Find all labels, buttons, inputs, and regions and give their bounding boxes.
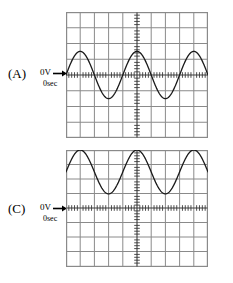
zero-volt-label-c: 0V [40, 203, 51, 212]
zero-volt-label-a: 0V [40, 68, 51, 77]
right-arrow-icon [53, 204, 67, 213]
scope-panel-c: (C) 0V 0sec [0, 140, 233, 283]
zero-sec-label-a: 0sec [43, 80, 57, 88]
right-arrow-icon [53, 69, 67, 78]
scope-grid-c [66, 150, 208, 267]
scope-screen-a [66, 12, 208, 138]
oscilloscope-figure: (A) 0V 0sec [0, 0, 233, 283]
scope-screen-c [66, 150, 208, 267]
panel-letter-a: (A) [8, 67, 26, 80]
scope-grid-a [66, 12, 208, 138]
scope-panel-a: (A) 0V 0sec [0, 0, 233, 140]
panel-letter-c: (C) [8, 202, 25, 215]
zero-sec-label-c: 0sec [43, 215, 57, 223]
